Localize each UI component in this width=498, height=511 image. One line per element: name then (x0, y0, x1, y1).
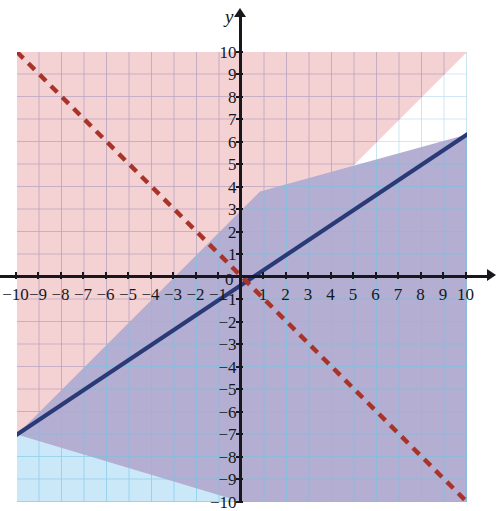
y-tick (236, 343, 243, 345)
y-tick-label: −9 (189, 471, 237, 488)
y-tick-label: −3 (189, 336, 237, 353)
y-axis-arrow-icon (234, 8, 246, 17)
y-tick-label: −2 (189, 313, 237, 330)
y-tick-label: 5 (189, 156, 237, 173)
y-tick (236, 141, 243, 143)
x-tick-label: 10 (457, 286, 474, 303)
y-tick-label: −10 (189, 493, 237, 510)
graph-figure: y 0 −10−9−8−7−6−5−4−3−2−1123456789101098… (0, 0, 498, 511)
y-tick (236, 433, 243, 435)
x-tick-label: 4 (326, 286, 335, 303)
y-tick-label: 1 (189, 246, 237, 263)
x-tick-label: 2 (281, 286, 290, 303)
y-tick (236, 186, 243, 188)
y-axis (239, 14, 242, 502)
x-tick-label: 7 (394, 286, 403, 303)
x-tick (307, 272, 309, 279)
y-tick-label: −8 (189, 448, 237, 465)
y-tick-label: 8 (189, 88, 237, 105)
x-tick (442, 272, 444, 279)
y-tick (236, 388, 243, 390)
y-tick (236, 298, 243, 300)
y-axis-label: y (225, 6, 233, 28)
x-tick-label: −7 (74, 286, 92, 303)
y-tick-label: −6 (189, 403, 237, 420)
x-tick (375, 272, 377, 279)
x-tick (330, 272, 332, 279)
x-axis (0, 275, 489, 278)
y-tick-label: 4 (189, 178, 237, 195)
x-tick (37, 272, 39, 279)
y-tick-label: −7 (189, 426, 237, 443)
x-tick (60, 272, 62, 279)
y-tick (236, 411, 243, 413)
y-tick-label: 2 (189, 223, 237, 240)
x-tick (195, 272, 197, 279)
y-tick (236, 501, 243, 503)
y-tick-label: 10 (189, 43, 237, 60)
x-tick-label: −6 (96, 286, 114, 303)
x-tick-label: −8 (51, 286, 69, 303)
x-tick-label: 3 (304, 286, 313, 303)
x-tick (465, 272, 467, 279)
y-tick-label: 3 (189, 201, 237, 218)
x-axis-arrow-icon (487, 269, 496, 281)
y-tick (236, 321, 243, 323)
x-tick-label: −3 (164, 286, 182, 303)
x-tick-label: 1 (259, 286, 268, 303)
y-tick (236, 253, 243, 255)
y-tick (236, 73, 243, 75)
y-tick (236, 118, 243, 120)
x-tick (285, 272, 287, 279)
x-tick-label: −9 (29, 286, 47, 303)
y-tick (236, 51, 243, 53)
x-tick-label: 9 (439, 286, 448, 303)
y-tick-label: 7 (189, 111, 237, 128)
y-tick-label: −4 (189, 358, 237, 375)
x-tick (262, 272, 264, 279)
x-tick (105, 272, 107, 279)
y-tick-label: 9 (189, 66, 237, 83)
x-tick-label: −5 (119, 286, 137, 303)
x-tick-label: 8 (416, 286, 425, 303)
y-tick (236, 96, 243, 98)
y-tick-label: −5 (189, 381, 237, 398)
y-tick (236, 163, 243, 165)
y-tick (236, 456, 243, 458)
x-tick-label: 5 (349, 286, 358, 303)
x-tick (397, 272, 399, 279)
x-tick (420, 272, 422, 279)
y-tick (236, 208, 243, 210)
x-tick-label: −10 (2, 286, 29, 303)
x-tick (217, 272, 219, 279)
x-tick (127, 272, 129, 279)
x-tick (82, 272, 84, 279)
x-tick (150, 272, 152, 279)
y-tick (236, 366, 243, 368)
y-tick-label: 6 (189, 133, 237, 150)
y-tick-label: −1 (189, 291, 237, 308)
x-tick (352, 272, 354, 279)
x-tick (15, 272, 17, 279)
x-tick-label: −4 (141, 286, 159, 303)
x-tick (172, 272, 174, 279)
x-tick-label: 6 (371, 286, 380, 303)
y-tick (236, 231, 243, 233)
y-tick (236, 478, 243, 480)
